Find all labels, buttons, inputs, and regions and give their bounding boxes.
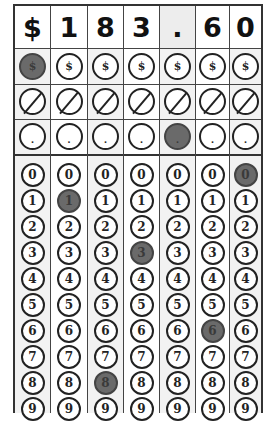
digit-bubble-3[interactable]: 3: [201, 241, 225, 265]
digit-bubble-2[interactable]: 2: [201, 215, 225, 239]
digit-bubble-4[interactable]: 4: [234, 267, 258, 291]
digit-bubble-8[interactable]: 8: [130, 371, 154, 395]
slash-bubble[interactable]: [56, 88, 83, 115]
digit-bubble-2[interactable]: 2: [234, 215, 258, 239]
digit-bubble-4[interactable]: 4: [21, 267, 45, 291]
slash-bubble[interactable]: [92, 88, 119, 115]
grid-column-3: 3$.0123456789: [124, 6, 160, 413]
digit-bubble-8[interactable]: 8: [57, 371, 81, 395]
digit-bubble-3[interactable]: 3: [21, 241, 45, 265]
digit-bubble-4[interactable]: 4: [201, 267, 225, 291]
digit-row: 0: [230, 162, 261, 188]
digit-bubble-3[interactable]: 3: [234, 241, 258, 265]
digit-bubble-0[interactable]: 0: [130, 163, 154, 187]
digit-bubble-7[interactable]: 7: [94, 345, 118, 369]
slash-bubble[interactable]: [199, 88, 226, 115]
slash-row-cell: [124, 84, 159, 120]
digit-bubble-7[interactable]: 7: [130, 345, 154, 369]
digit-bubble-7[interactable]: 7: [234, 345, 258, 369]
digit-bubble-1[interactable]: 1: [201, 189, 225, 213]
digit-bubble-3[interactable]: 3: [94, 241, 118, 265]
digit-bubble-9[interactable]: 9: [94, 397, 118, 421]
digit-row: 7: [230, 344, 261, 370]
digit-bubble-5[interactable]: 5: [130, 293, 154, 317]
dollar-bubble[interactable]: $: [92, 53, 119, 80]
digit-bubble-3[interactable]: 3: [57, 241, 81, 265]
digit-bubble-1[interactable]: 1: [166, 189, 190, 213]
digit-bubble-0[interactable]: 0: [166, 163, 190, 187]
digit-row: 0: [88, 162, 123, 188]
digit-bubble-6[interactable]: 6: [94, 319, 118, 343]
digit-bubble-8[interactable]: 8: [234, 371, 258, 395]
decimal-bubble[interactable]: .: [232, 123, 259, 150]
digit-bubble-9[interactable]: 9: [130, 397, 154, 421]
decimal-bubble[interactable]: .: [128, 123, 155, 150]
digit-bubble-0[interactable]: 0: [234, 163, 258, 187]
digit-bubble-6[interactable]: 6: [21, 319, 45, 343]
slash-bubble[interactable]: [128, 88, 155, 115]
digit-bubble-2[interactable]: 2: [21, 215, 45, 239]
digit-bubble-6[interactable]: 6: [234, 319, 258, 343]
digit-bubble-5[interactable]: 5: [21, 293, 45, 317]
decimal-bubble[interactable]: .: [56, 123, 83, 150]
digit-bubble-0[interactable]: 0: [94, 163, 118, 187]
digit-bubble-4[interactable]: 4: [130, 267, 154, 291]
digit-bubble-6[interactable]: 6: [201, 319, 225, 343]
digit-bubble-1[interactable]: 1: [94, 189, 118, 213]
decimal-bubble[interactable]: .: [19, 123, 46, 150]
digit-row: 3: [230, 240, 261, 266]
dollar-bubble[interactable]: $: [164, 53, 191, 80]
digit-bubble-3[interactable]: 3: [130, 241, 154, 265]
dollar-bubble[interactable]: $: [232, 53, 259, 80]
slash-bubble[interactable]: [164, 88, 191, 115]
decimal-bubble[interactable]: .: [199, 123, 226, 150]
digit-bubble-2[interactable]: 2: [94, 215, 118, 239]
digit-row: 9: [196, 396, 229, 422]
slash-bubble[interactable]: [19, 88, 46, 115]
digit-bubble-5[interactable]: 5: [234, 293, 258, 317]
digit-bubble-6[interactable]: 6: [130, 319, 154, 343]
digit-bubble-3[interactable]: 3: [166, 241, 190, 265]
digit-bubble-0[interactable]: 0: [21, 163, 45, 187]
digit-bubble-2[interactable]: 2: [57, 215, 81, 239]
digit-bubble-1[interactable]: 1: [21, 189, 45, 213]
digit-bubble-0[interactable]: 0: [57, 163, 81, 187]
digit-bubble-4[interactable]: 4: [57, 267, 81, 291]
digit-bubble-1[interactable]: 1: [130, 189, 154, 213]
digit-bubble-9[interactable]: 9: [166, 397, 190, 421]
digit-bubble-6[interactable]: 6: [57, 319, 81, 343]
digit-bubble-9[interactable]: 9: [201, 397, 225, 421]
digit-bubble-7[interactable]: 7: [201, 345, 225, 369]
digit-bubble-9[interactable]: 9: [57, 397, 81, 421]
dollar-bubble[interactable]: $: [56, 53, 83, 80]
digit-row: 7: [196, 344, 229, 370]
digit-bubble-5[interactable]: 5: [94, 293, 118, 317]
digit-bubble-6[interactable]: 6: [166, 319, 190, 343]
decimal-bubble[interactable]: .: [92, 123, 119, 150]
digit-bubble-5[interactable]: 5: [57, 293, 81, 317]
digit-bubble-9[interactable]: 9: [21, 397, 45, 421]
digit-bubble-1[interactable]: 1: [57, 189, 81, 213]
digit-bubble-8[interactable]: 8: [21, 371, 45, 395]
digit-bubble-2[interactable]: 2: [130, 215, 154, 239]
digit-bubble-4[interactable]: 4: [166, 267, 190, 291]
dollar-bubble[interactable]: $: [19, 53, 46, 80]
digit-bubble-8[interactable]: 8: [166, 371, 190, 395]
digit-bubble-2[interactable]: 2: [166, 215, 190, 239]
digit-bubble-5[interactable]: 5: [166, 293, 190, 317]
digit-bubble-7[interactable]: 7: [21, 345, 45, 369]
digit-bubble-8[interactable]: 8: [94, 371, 118, 395]
digit-bubble-9[interactable]: 9: [234, 397, 258, 421]
digit-bubble-4[interactable]: 4: [94, 267, 118, 291]
digit-bubble-1[interactable]: 1: [234, 189, 258, 213]
digit-bubble-8[interactable]: 8: [201, 371, 225, 395]
digit-bubble-0[interactable]: 0: [201, 163, 225, 187]
dollar-bubble[interactable]: $: [128, 53, 155, 80]
dollar-bubble[interactable]: $: [199, 53, 226, 80]
slash-row-cell: [88, 84, 123, 120]
decimal-bubble[interactable]: .: [164, 123, 191, 150]
digit-bubble-5[interactable]: 5: [201, 293, 225, 317]
digit-bubble-7[interactable]: 7: [57, 345, 81, 369]
slash-bubble[interactable]: [232, 88, 259, 115]
digit-bubble-7[interactable]: 7: [166, 345, 190, 369]
